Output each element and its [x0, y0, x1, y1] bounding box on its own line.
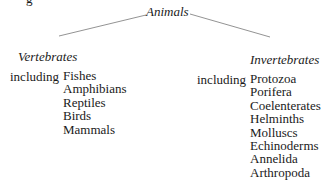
list-item: Mammals [63, 123, 127, 136]
list-item: Fishes [63, 69, 127, 82]
list-item: Molluscs [250, 126, 321, 139]
list-item: Arthropoda [250, 166, 321, 179]
connector-word: including [197, 72, 246, 88]
list-item: Echinoderms [250, 139, 321, 152]
list-item: Birds [63, 109, 127, 122]
list-item: Coelenterates [250, 99, 321, 112]
item-list: Fishes Amphibians Reptiles Birds Mammals [63, 69, 127, 136]
line-to-vertebrates [59, 15, 146, 36]
item-list: Protozoa Porifera Coelenterates Helminth… [250, 72, 321, 179]
list-item: Porifera [250, 85, 321, 98]
root-node-animals: Animals [146, 4, 189, 20]
list-item: Reptiles [63, 96, 127, 109]
list-item: Amphibians [63, 82, 127, 95]
connector-word: including [10, 69, 59, 85]
branch-title: Vertebrates [18, 49, 77, 65]
line-to-invertebrates [190, 14, 270, 37]
branch-title: Invertebrates [250, 52, 319, 68]
list-item: Protozoa [250, 72, 321, 85]
list-item: Helminths [250, 112, 321, 125]
list-item: Annelida [250, 152, 321, 165]
